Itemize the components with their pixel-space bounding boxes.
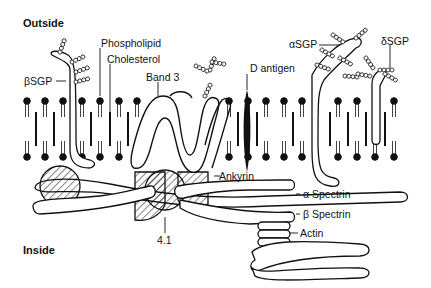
region-inside-label: Inside: [23, 245, 55, 256]
band3-label: Band 3: [146, 72, 179, 83]
alpha-sgp-label: αSGP: [289, 39, 317, 50]
cytoskeleton: [33, 166, 408, 280]
protein-4-1-label: 4.1: [157, 235, 172, 246]
band3-protein: [131, 92, 230, 173]
beta-sgp-label: βSGP: [24, 76, 52, 87]
alpha-spectrin-label: α Spectrin: [303, 189, 351, 200]
delta-sgp-label: δSGP: [381, 36, 409, 47]
actin-label: Actin: [300, 228, 323, 239]
beta-spectrin-label: β Spectrin: [303, 209, 350, 220]
membrane-diagram: [0, 0, 431, 288]
phospholipid-label: Phospholipid: [101, 38, 161, 49]
cholesterol-label: Cholesterol: [107, 54, 160, 65]
region-outside-label: Outside: [23, 18, 64, 29]
d-antigen-label: D antigen: [250, 63, 295, 74]
band3-oligosaccharide: [193, 56, 226, 98]
ankyrin-label: Ankyrin: [219, 171, 254, 182]
